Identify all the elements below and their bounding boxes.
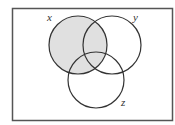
venn-diagram: x y z	[0, 0, 175, 125]
set-y-label: y	[132, 11, 138, 23]
set-z-label: z	[120, 96, 126, 108]
set-x-label: x	[46, 11, 52, 23]
